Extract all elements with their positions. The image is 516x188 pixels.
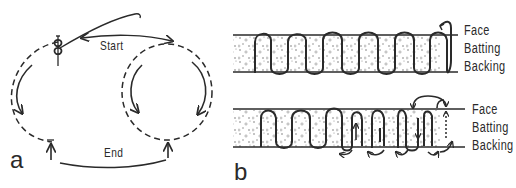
panel-b-top-layers (233, 22, 458, 74)
layer-label-batting-top: Batting (464, 40, 501, 56)
layer-label-backing-bottom: Backing (472, 137, 514, 153)
quilting-stitch-diagram (0, 0, 516, 188)
right-loop-arrow-right (192, 62, 206, 114)
needle-icon (55, 36, 62, 66)
panel-label-a: a (10, 146, 23, 174)
right-dashed-loop (122, 44, 212, 140)
layer-label-face-top: Face (464, 22, 490, 38)
panel-b-bottom-layers (233, 96, 465, 155)
right-loop-arrow-left (131, 65, 142, 112)
layer-label-face-bottom: Face (472, 101, 498, 117)
layer-label-batting-bottom: Batting (472, 119, 509, 135)
left-direction-arrow (17, 65, 32, 113)
end-label: End (104, 145, 123, 160)
start-label: Start (100, 38, 123, 53)
panel-label-b: b (234, 158, 247, 186)
left-dashed-loop (11, 42, 58, 142)
layer-label-backing-top: Backing (464, 58, 506, 74)
end-arc (60, 160, 166, 168)
start-arrow (82, 35, 172, 41)
